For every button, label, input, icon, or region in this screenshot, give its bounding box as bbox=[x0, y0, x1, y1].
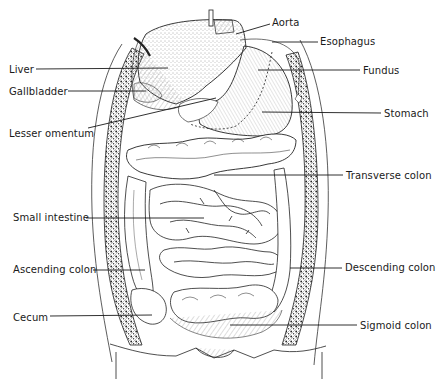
small-intestine bbox=[149, 184, 282, 277]
label-lesser-omentum: Lesser omentum bbox=[9, 128, 94, 140]
label-ascending-colon: Ascending colon bbox=[13, 264, 96, 276]
label-liver: Liver bbox=[9, 64, 34, 76]
label-sigmoid-colon: Sigmoid colon bbox=[360, 320, 432, 332]
pelvis bbox=[110, 344, 326, 379]
cecum bbox=[131, 288, 167, 324]
label-aorta: Aorta bbox=[272, 17, 299, 29]
label-transverse-colon: Transverse colon bbox=[346, 170, 432, 182]
label-descending-colon: Descending colon bbox=[345, 262, 436, 274]
label-gallbladder: Gallbladder bbox=[9, 86, 68, 98]
ascending-colon bbox=[125, 176, 154, 306]
anatomy-diagram: Aorta Esophagus Fundus Stomach Liver Gal… bbox=[0, 0, 439, 379]
transverse-colon bbox=[127, 134, 297, 179]
label-stomach: Stomach bbox=[384, 108, 429, 120]
sigmoid-colon bbox=[170, 285, 282, 338]
label-cecum: Cecum bbox=[13, 312, 48, 324]
label-esophagus: Esophagus bbox=[320, 36, 375, 48]
label-small-intestine: Small intestine bbox=[13, 212, 89, 224]
label-fundus: Fundus bbox=[363, 65, 399, 77]
